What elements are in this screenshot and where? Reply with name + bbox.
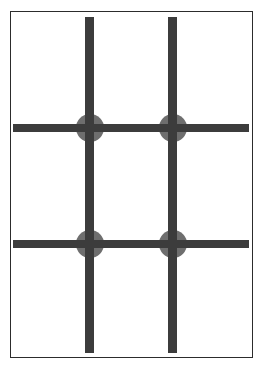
vertical-line-right: [168, 17, 177, 353]
horizontal-line-top: [13, 124, 249, 132]
figure-canvas: [0, 0, 265, 371]
horizontal-line-bottom: [13, 240, 249, 248]
diagram-plot-area: [11, 12, 252, 357]
vertical-line-left: [85, 17, 94, 353]
